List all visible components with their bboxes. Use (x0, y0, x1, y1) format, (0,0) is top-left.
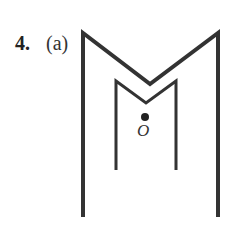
point-o (141, 113, 149, 121)
point-label: O (137, 121, 149, 141)
figure (0, 0, 241, 234)
outer-shape (83, 33, 218, 217)
